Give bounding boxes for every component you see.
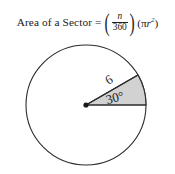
formula-label: Area of a Sector	[17, 16, 92, 28]
formula-numerator: n	[116, 12, 123, 22]
sector-area-formula: Area of a Sector = ( n 360 ) (πr2)	[0, 6, 175, 38]
formula-equals-sign: =	[95, 16, 101, 28]
figure-canvas: Area of a Sector = ( n 360 ) (πr2) 6 30°	[0, 0, 175, 174]
center-point-dot	[83, 102, 88, 107]
formula-denominator: 360	[112, 23, 128, 33]
formula-pi-r-squared: (πr2)	[137, 16, 158, 29]
circle-diagram: 6 30°	[0, 38, 175, 174]
pi-close-paren: )	[155, 16, 159, 28]
formula-fraction: n 360	[112, 12, 128, 33]
